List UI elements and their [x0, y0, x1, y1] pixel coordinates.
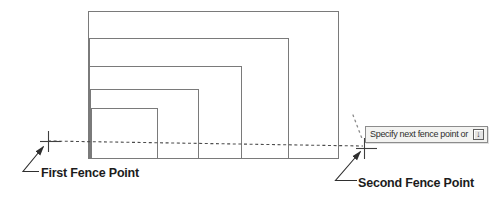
cursor-trail-line	[353, 115, 363, 141]
nested-rectangle-5[interactable]	[92, 109, 158, 159]
fence-dashed-line	[48, 141, 363, 146]
second-fence-point-label: Second Fence Point	[358, 176, 474, 190]
dynamic-input-tooltip: Specify next fence point or ↓	[365, 126, 488, 143]
nested-rectangle-3[interactable]	[90, 67, 242, 159]
nested-rectangle-4[interactable]	[91, 90, 199, 159]
first-fence-point-label: First Fence Point	[41, 166, 139, 180]
tooltip-prompt-text: Specify next fence point or	[370, 130, 468, 139]
fence-selection-figure: First Fence Point Second Fence Point Spe…	[0, 0, 493, 204]
down-arrow-key-icon[interactable]: ↓	[473, 129, 484, 140]
leader-second-fence-point	[336, 152, 361, 181]
nested-rectangle-2[interactable]	[90, 39, 289, 159]
nested-rectangle-1[interactable]	[89, 12, 339, 159]
